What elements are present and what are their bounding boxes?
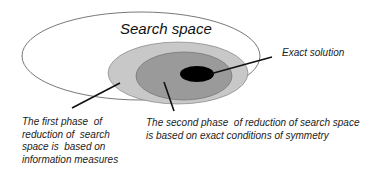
exact-solution-ellipse bbox=[180, 66, 214, 82]
second-phase-label: The second phase of reduction of search … bbox=[146, 117, 359, 142]
search-space-title: Search space bbox=[120, 20, 212, 37]
exact-solution-label: Exact solution bbox=[282, 47, 344, 58]
first-phase-label: The first phase of reduction of search s… bbox=[22, 116, 118, 166]
